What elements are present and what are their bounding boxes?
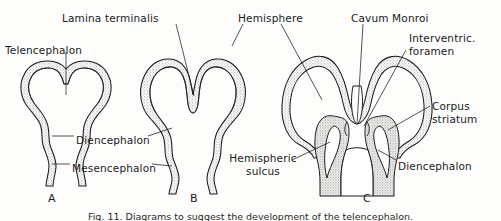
label-cavum-monroi: Cavum Monroi: [351, 12, 429, 24]
figure-root: Telencephalon Lamina terminalis Dienceph…: [0, 0, 501, 221]
panel-letter-b: B: [190, 192, 198, 205]
panel-c-diagram: [282, 56, 432, 196]
leader-lamina-terminalis: [176, 24, 194, 96]
label-lamina-terminalis: Lamina terminalis: [62, 12, 159, 24]
label-hemispheric-sulcus: Hemispheric sulcus: [224, 152, 302, 177]
label-mesencephalon-a: Mesencephalon: [72, 162, 156, 174]
leader-hemisphere-left: [232, 24, 243, 46]
figure-caption: Fig. 11. Diagrams to suggest the develop…: [0, 211, 501, 221]
panel-c-diencephalon-stalk: [341, 148, 373, 196]
label-hemisphere: Hemisphere: [238, 12, 303, 24]
label-diencephalon-a: Diencephalon: [76, 134, 150, 146]
panel-letter-c: C: [363, 192, 371, 205]
panel-letter-a: A: [48, 192, 56, 205]
label-interventric-foramen: Interventric. foramen: [409, 32, 499, 57]
label-diencephalon-c: Diencephalon: [398, 160, 472, 172]
label-telencephalon: Telencephalon: [5, 44, 82, 56]
label-corpus-striatum: Corpus striatum: [432, 100, 500, 125]
